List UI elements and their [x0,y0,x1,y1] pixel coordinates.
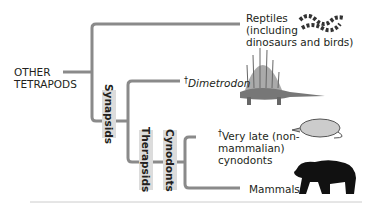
dimetrodon-name: Dimetrodon [188,77,250,89]
bear-icon [294,160,356,194]
taxon-reptiles: Reptiles (including dinosaurs and birds) [246,12,353,48]
reptiles-line2: (including [246,24,353,36]
taxon-late-cynodonts: †Very late (non- mammalian) cynodonts [218,128,300,166]
mammals-name: Mammals [249,183,300,195]
reptiles-line1: Reptiles [246,12,353,24]
late-cynodonts-line2: mammalian) [218,142,300,154]
late-cynodonts-line1: Very late (non- [222,130,300,142]
late-cynodonts-line3: cynodonts [218,154,300,166]
root-label-line1: OTHER [14,66,77,78]
taxon-dimetrodon: †Dimetrodon [184,75,250,89]
group-label-therapsids: Therapsids [139,130,153,190]
reptiles-line3: dinosaurs and birds) [246,36,353,48]
group-label-cynodonts: Cynodonts [163,130,177,190]
dimetrodon-icon [240,48,325,105]
taxon-mammals: Mammals [249,183,300,195]
root-label-line2: TETRAPODS [14,78,77,90]
group-label-synapsids: Synapsids [102,90,116,138]
root-label: OTHER TETRAPODS [14,66,77,90]
